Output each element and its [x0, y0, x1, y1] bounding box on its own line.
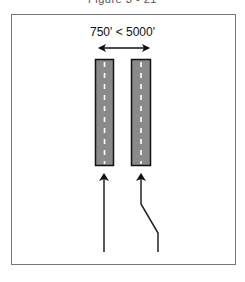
runway-diagram [0, 0, 245, 282]
left-runway [96, 60, 114, 166]
offset-approach-arrow-icon [141, 174, 158, 252]
right-runway [132, 60, 151, 166]
